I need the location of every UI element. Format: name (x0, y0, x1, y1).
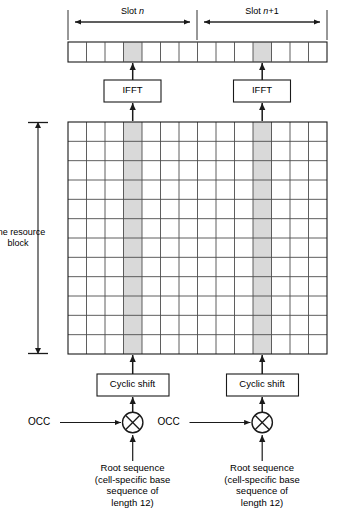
cyclic-shift-label-slot-n: Cyclic shift (110, 378, 155, 389)
resource-block-grid (68, 122, 327, 354)
multiplier-to-cyclic-shift-arrows (133, 397, 263, 412)
diagram-canvas: Slot n Slot n+1 IFFT IFFT One resource b… (0, 0, 338, 514)
ifft-label-slot-n: IFFT (122, 84, 142, 95)
root-sequence-caption-slot-n: Root sequence (cell-specific base sequen… (95, 462, 171, 508)
symbol-cell-shaded-slot-n-plus-1 (253, 42, 272, 62)
multiplier-node-slot-n (123, 412, 143, 432)
occ-label-slot-n-plus-1: OCC (158, 416, 180, 428)
diagram-vector-layer (0, 0, 338, 514)
ifft-to-symbol-arrows (133, 63, 263, 80)
multiplier-node-slot-n-plus-1 (252, 412, 272, 432)
cyclic-shift-label-slot-n-plus-1: Cyclic shift (239, 378, 284, 389)
ifft-label-slot-n-plus-1: IFFT (252, 84, 272, 95)
grid-to-ifft-arrows (133, 103, 263, 121)
symbol-cell-shaded-slot-n (124, 42, 143, 62)
slot-n-plus-1-label: Slot n+1 (245, 6, 278, 17)
slot-dimension-arrows (68, 10, 327, 40)
one-resource-block-label: One resource block (0, 227, 48, 250)
symbol-timeline-bar (68, 42, 327, 62)
slot-n-label: Slot n (121, 6, 144, 17)
occ-label-slot-n: OCC (28, 416, 50, 428)
cyclic-shift-to-grid-arrows (133, 355, 263, 374)
root-sequence-caption-slot-n-plus-1: Root sequence (cell-specific base sequen… (224, 462, 300, 508)
root-sequence-input-arrows (133, 435, 263, 461)
